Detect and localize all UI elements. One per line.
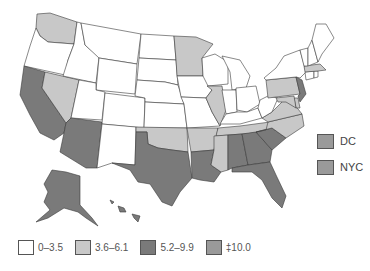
legend-label: 3.6–6.1 [95,242,128,253]
state-AZ[interactable] [60,118,102,168]
legend-item: 3.6–6.1 [75,240,128,255]
state-CO[interactable] [102,93,145,128]
legend-swatch [18,240,34,255]
state-ND[interactable] [139,34,176,60]
state-CT[interactable] [305,71,314,80]
legend-item: 0–3.5 [18,240,63,255]
nyc-inset-swatch [317,160,334,175]
state-KS[interactable] [144,102,187,128]
legend: 0–3.5 3.6–6.1 5.2–9.9 ‡10.0 [18,240,263,255]
state-OH[interactable] [236,86,260,112]
legend-swatch [140,240,156,255]
state-FL[interactable] [232,162,286,208]
state-WY[interactable] [96,58,137,94]
state-NM[interactable] [97,124,136,168]
state-HI[interactable] [110,200,140,222]
legend-swatch [206,240,222,255]
legend-label: 0–3.5 [38,242,63,253]
state-NY[interactable] [264,50,306,80]
nyc-inset-label: NYC [340,161,363,173]
us-choropleth-map [0,0,370,271]
state-AK[interactable] [36,170,98,226]
dc-inset-label: DC [340,135,356,147]
state-RI[interactable] [314,71,318,78]
state-PA[interactable] [266,77,300,98]
legend-label: ‡10.0 [226,242,251,253]
legend-label: 5.2–9.9 [160,242,193,253]
legend-swatch [75,240,91,255]
dc-inset-swatch [317,134,334,149]
legend-item: ‡10.0 [206,240,251,255]
legend-item: 5.2–9.9 [140,240,193,255]
state-AR[interactable] [187,128,218,152]
